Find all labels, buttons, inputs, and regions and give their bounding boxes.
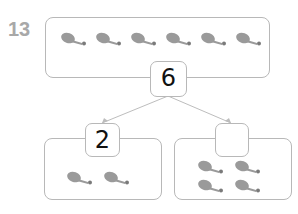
drumstick-icon xyxy=(166,31,192,45)
problem-number: 13 xyxy=(8,18,30,41)
drumstick-icon xyxy=(131,31,157,45)
drumstick-icon xyxy=(235,178,261,192)
part-left-number-box: 2 xyxy=(85,123,120,157)
part-right-answer-box[interactable] xyxy=(215,123,249,157)
drumstick-icon xyxy=(198,178,224,192)
drumstick-icon xyxy=(67,170,93,184)
drumstick-icon xyxy=(201,31,227,45)
drumstick-icon xyxy=(236,31,262,45)
drumstick-icon xyxy=(96,31,122,45)
drumstick-icon xyxy=(198,159,224,173)
drumstick-icon xyxy=(104,170,130,184)
drumstick-icon xyxy=(235,159,261,173)
whole-number-box: 6 xyxy=(150,61,187,97)
drumstick-icon xyxy=(61,31,87,45)
